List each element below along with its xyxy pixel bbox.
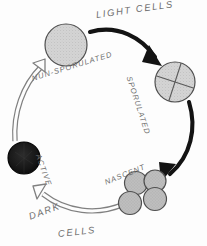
arrow-sporulated-to-nascent [159,102,192,182]
cell-cycle-diagram: LIGHT CELLS NUN-SPORULATED SPORULATED NA… [0,0,207,246]
